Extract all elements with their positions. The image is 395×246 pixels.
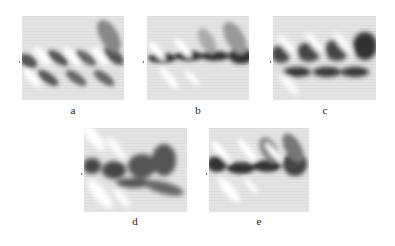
axis-tick bbox=[270, 61, 271, 63]
panel-d-image bbox=[84, 128, 187, 212]
panel-c-image bbox=[273, 16, 376, 100]
panel-c-label: c bbox=[315, 104, 335, 116]
axis-tick bbox=[81, 173, 82, 175]
panel-a-label: a bbox=[63, 104, 83, 116]
axis-tick bbox=[206, 173, 207, 175]
panel-b-image bbox=[147, 16, 249, 100]
panel-a-image bbox=[22, 16, 124, 100]
panel-e-image bbox=[209, 128, 309, 212]
panel-b-label: b bbox=[188, 104, 208, 116]
panel-d-label: d bbox=[125, 215, 145, 227]
axis-tick bbox=[143, 61, 144, 63]
panel-e-label: e bbox=[249, 215, 269, 227]
axis-tick bbox=[19, 61, 20, 63]
